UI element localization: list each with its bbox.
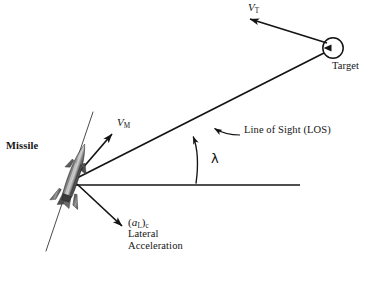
- accel-subscript-outer: c: [146, 222, 149, 230]
- target-velocity-vector: [250, 19, 327, 43]
- lateral-acceleration-line2: Acceleration: [128, 240, 183, 252]
- lambda-angle-label: λ: [211, 152, 219, 167]
- line-of-sight-line: [73, 53, 324, 180]
- target-label: Target: [332, 60, 359, 72]
- line-of-sight-label: Line of Sight (LOS): [244, 124, 331, 136]
- lateral-acceleration-label: (aL)c Lateral Acceleration: [128, 216, 183, 252]
- lateral-acceleration-vector: [77, 184, 122, 226]
- paren-close: ): [142, 216, 146, 228]
- target-velocity-subscript: T: [255, 7, 259, 15]
- los-leader-line: [215, 129, 241, 136]
- lambda-angle-arc: [193, 137, 197, 184]
- missile-illustration-icon: [49, 139, 98, 211]
- accel-subscript-inner: L: [137, 222, 141, 230]
- target-velocity-symbol: V: [248, 1, 255, 13]
- missile-velocity-label: VM: [117, 116, 130, 128]
- missile-velocity-symbol: V: [117, 116, 124, 128]
- missile-label: Missile: [6, 140, 38, 152]
- missile-velocity-subscript: M: [124, 122, 130, 130]
- diagram-canvas: [0, 0, 379, 281]
- missile-geometry-diagram: Missile Target VT VM Line of Sight (LOS)…: [0, 0, 379, 281]
- lateral-acceleration-symbol: (aL)c: [128, 216, 183, 228]
- target-velocity-label: VT: [248, 1, 259, 13]
- lateral-acceleration-line1: Lateral: [128, 228, 183, 240]
